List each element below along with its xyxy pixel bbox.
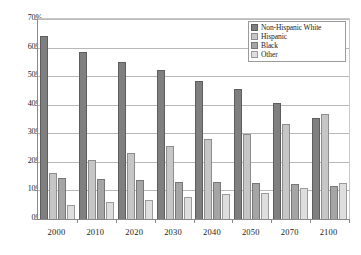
x-tick-mark — [271, 219, 272, 223]
population-projection-bar-chart: 70%60%50%40%30%20%10%0% 2000201020202030… — [0, 0, 361, 255]
bar — [330, 186, 338, 219]
legend-label: Black — [261, 42, 278, 50]
bar — [136, 180, 144, 219]
bar — [243, 134, 251, 219]
bar — [213, 182, 221, 219]
bar-group — [194, 19, 233, 219]
x-tick-mark — [194, 219, 195, 223]
bar — [312, 118, 320, 219]
bar — [118, 62, 126, 219]
bar — [204, 139, 212, 219]
x-tick-label: 2030 — [151, 228, 195, 237]
bar — [291, 184, 299, 219]
bar-group — [116, 19, 155, 219]
bar — [195, 81, 203, 219]
bar — [252, 183, 260, 219]
x-tick-label: 2020 — [112, 228, 156, 237]
y-tick-mark — [35, 219, 38, 220]
bar — [321, 114, 329, 219]
legend-label: Other — [261, 51, 278, 59]
x-tick-label: 2100 — [307, 228, 351, 237]
legend-swatch-icon — [251, 33, 258, 40]
legend-swatch-icon — [251, 24, 258, 31]
x-tick-mark — [349, 219, 350, 223]
x-tick-mark — [116, 219, 117, 223]
bar — [40, 36, 48, 219]
x-tick-mark — [77, 219, 78, 223]
x-tick-label: 2040 — [190, 228, 234, 237]
legend-item[interactable]: Other — [251, 50, 343, 59]
bar — [145, 200, 153, 219]
bar — [282, 124, 290, 219]
legend-item[interactable]: Hispanic — [251, 32, 343, 41]
legend-item[interactable]: Non-Hispanic White — [251, 23, 343, 32]
bar — [300, 188, 308, 219]
bar — [127, 153, 135, 219]
bar — [339, 183, 347, 219]
legend: Non-Hispanic WhiteHispanicBlackOther — [248, 21, 346, 62]
bar — [157, 70, 165, 219]
x-tick-label: 2000 — [34, 228, 78, 237]
bar — [49, 173, 57, 219]
x-tick-label: 2010 — [73, 228, 117, 237]
bar — [261, 193, 269, 219]
legend-item[interactable]: Black — [251, 41, 343, 50]
bar — [106, 202, 114, 219]
x-tick-mark — [155, 219, 156, 223]
legend-swatch-icon — [251, 42, 258, 49]
legend-label: Hispanic — [261, 33, 287, 41]
bar — [234, 89, 242, 219]
bar — [97, 179, 105, 219]
bar-group — [77, 19, 116, 219]
bar — [222, 194, 230, 219]
bar — [88, 160, 96, 219]
bar — [58, 178, 66, 219]
bar — [67, 205, 75, 219]
bar — [175, 182, 183, 219]
bar — [166, 146, 174, 219]
bar-group — [38, 19, 77, 219]
bar — [79, 52, 87, 219]
x-tick-label: 2070 — [268, 228, 312, 237]
x-tick-label: 2050 — [229, 228, 273, 237]
bar — [184, 197, 192, 219]
x-tick-mark — [232, 219, 233, 223]
legend-label: Non-Hispanic White — [261, 24, 321, 32]
bar-group — [155, 19, 194, 219]
x-tick-mark — [310, 219, 311, 223]
bar — [273, 103, 281, 219]
legend-swatch-icon — [251, 51, 258, 58]
